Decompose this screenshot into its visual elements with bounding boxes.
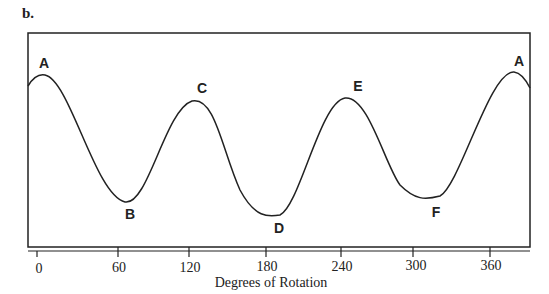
tick-240: 240 (332, 259, 353, 274)
tick-360: 360 (481, 258, 502, 273)
point-label-e: E (353, 78, 362, 94)
point-label-b: B (125, 206, 135, 222)
point-label-d: D (274, 220, 284, 236)
curve (28, 72, 530, 216)
point-label-a-end: A (514, 53, 524, 69)
tick-180: 180 (257, 259, 278, 274)
x-axis (28, 247, 530, 257)
panel-label: b. (22, 5, 34, 21)
tick-120: 120 (180, 260, 201, 275)
x-axis-label: Degrees of Rotation (215, 275, 328, 290)
tick-0: 0 (36, 261, 43, 276)
point-label-f: F (432, 204, 441, 220)
tick-60: 60 (112, 260, 126, 275)
point-label-a: A (39, 55, 49, 71)
energy-rotation-chart: b. 0 60 120 180 240 300 360 Degrees of R… (0, 0, 549, 294)
tick-300: 300 (406, 258, 427, 273)
point-label-c: C (197, 80, 207, 96)
